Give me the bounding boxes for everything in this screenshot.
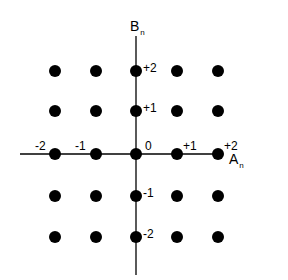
lattice-point	[212, 231, 224, 243]
lattice-point	[171, 65, 183, 77]
tick-label-y-neg2: -2	[143, 227, 154, 241]
tick-label-y-neg1: -1	[143, 186, 154, 200]
tick-label-y-pos1: +1	[143, 101, 157, 115]
horizontal-axis-label: An	[229, 151, 244, 170]
vertical-axis-label: Bn	[130, 18, 145, 37]
lattice-point	[49, 65, 61, 77]
lattice-point	[212, 190, 224, 202]
horizontal-axis-subscript: n	[239, 161, 243, 170]
lattice-point	[49, 105, 61, 117]
lattice-point	[90, 190, 102, 202]
tick-label-x-neg2: -2	[35, 139, 46, 153]
lattice-point	[130, 231, 142, 243]
lattice-point	[49, 231, 61, 243]
lattice-point	[49, 148, 61, 160]
lattice-point	[171, 190, 183, 202]
tick-label-y-pos2: +2	[143, 61, 157, 75]
tick-label-x-neg1: -1	[75, 139, 86, 153]
lattice-point	[212, 148, 224, 160]
lattice-point	[90, 105, 102, 117]
lattice-point	[130, 105, 142, 117]
lattice-point	[212, 65, 224, 77]
lattice-point	[90, 148, 102, 160]
vertical-axis-subscript: n	[140, 28, 144, 37]
tick-label-origin: 0	[145, 139, 152, 153]
lattice-point	[171, 148, 183, 160]
tick-label-x-pos2: +2	[224, 139, 238, 153]
lattice-point	[90, 65, 102, 77]
lattice-point	[90, 231, 102, 243]
lattice-point	[171, 231, 183, 243]
lattice-point	[130, 148, 142, 160]
lattice-point	[212, 105, 224, 117]
tick-label-x-pos1: +1	[183, 139, 197, 153]
lattice-point	[171, 105, 183, 117]
lattice-point	[130, 65, 142, 77]
lattice-point	[130, 190, 142, 202]
lattice-diagram: Bn An -2 -1 0 +1 +2 +2 +1 -1 -2	[0, 0, 288, 280]
lattice-point	[49, 190, 61, 202]
